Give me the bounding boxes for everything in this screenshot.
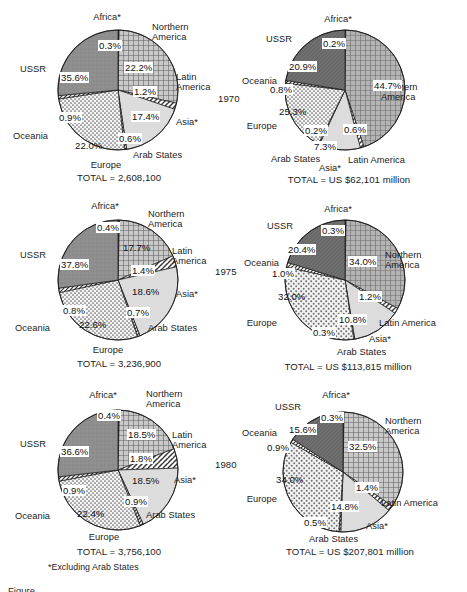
total-label: TOTAL = 2,608,100: [44, 172, 194, 183]
value-africa: 0.3%: [320, 412, 344, 423]
value-ussr: 15.6%: [288, 424, 317, 435]
value-northern-america: 34.0%: [348, 256, 377, 267]
value-latin-america: 1.8%: [129, 453, 153, 464]
value-asia: 14.8%: [330, 501, 359, 512]
label-ussr: USSR: [267, 221, 307, 231]
label-asia: Asia*: [307, 163, 353, 173]
value-oceania: 0.8%: [62, 305, 86, 316]
label-northern-america: Northern America: [152, 22, 214, 43]
label-latin-america: Latin America: [381, 498, 463, 508]
total-label: TOTAL = US $113,815 million: [253, 361, 443, 372]
value-africa: 0.3%: [321, 225, 345, 236]
label-asia: Asia*: [366, 521, 410, 531]
value-arab-states: 0.7%: [126, 307, 150, 318]
value-ussr: 36.6%: [60, 446, 89, 457]
label-arab-states: Arab States: [148, 323, 212, 333]
label-europe: Europe: [78, 160, 134, 170]
chart-money-1975: Africa* Northern America Latin America A…: [233, 192, 467, 384]
value-arab-states: 0.5%: [303, 517, 327, 528]
value-asia: 18.5%: [131, 475, 160, 486]
label-arab-states: Arab States: [133, 150, 195, 160]
value-arab-states: 0.2%: [304, 125, 328, 136]
chart-money-1980: Africa* Northern America Latin America A…: [233, 384, 467, 576]
label-northern-america: Northern America: [385, 416, 447, 437]
value-africa: 0.3%: [98, 40, 122, 51]
value-oceania: 0.8%: [269, 84, 293, 95]
value-northern-america: 32.5%: [348, 441, 377, 452]
value-arab-states: 0.3%: [312, 327, 336, 338]
label-oceania: Oceania: [225, 428, 277, 438]
label-ussr: USSR: [0, 64, 46, 74]
value-northern-america: 22.2%: [124, 62, 153, 73]
value-northern-america: 18.5%: [127, 429, 156, 440]
value-northern-america: 17.7%: [122, 242, 151, 253]
label-europe: Europe: [229, 494, 277, 504]
label-africa: Africa*: [68, 390, 138, 400]
label-northern-america: Northern America: [385, 250, 447, 271]
label-latin-america: Latin America: [348, 155, 428, 165]
value-asia: 18.6%: [131, 286, 160, 297]
value-latin-america: 0.6%: [343, 124, 367, 135]
value-europe: 25.3%: [278, 106, 307, 117]
total-label: TOTAL = US $62,101 million: [259, 174, 439, 185]
value-oceania: 0.9%: [62, 485, 86, 496]
label-europe: Europe: [80, 345, 136, 355]
label-ussr: USSR: [275, 402, 315, 412]
value-europe: 22.0%: [74, 140, 103, 151]
label-asia: Asia*: [176, 289, 216, 299]
value-latin-america: 1.2%: [358, 291, 382, 302]
value-europe: 34.0%: [275, 474, 304, 485]
figure-six-pie-charts: Africa* Northern America Latin America A…: [0, 0, 467, 592]
label-ussr: USSR: [0, 250, 46, 260]
value-latin-america: 1.4%: [131, 265, 155, 276]
value-oceania: 0.9%: [58, 112, 82, 123]
value-asia: 17.4%: [131, 111, 160, 122]
label-latin-america: Latin America: [172, 430, 220, 451]
label-africa: Africa*: [303, 204, 373, 214]
value-arab-states: 0.6%: [118, 133, 142, 144]
label-arab-states: Arab States: [271, 154, 335, 164]
year-label-1970: 1970: [218, 93, 240, 104]
label-asia: Asia*: [369, 334, 413, 344]
value-arab-states: 0.9%: [124, 496, 148, 507]
label-africa: Africa*: [303, 14, 373, 24]
label-europe: Europe: [231, 318, 277, 328]
label-europe: Europe: [233, 121, 277, 131]
label-ussr: USSR: [266, 34, 306, 44]
value-northern-america: 44.7%: [373, 80, 402, 91]
chart-students-1975: Africa* Northern America Latin America A…: [0, 192, 234, 384]
total-label: TOTAL = US $207,801 million: [255, 546, 445, 557]
chart-money-1970: Africa* Northern America Latin America A…: [233, 0, 467, 192]
value-africa: 0.4%: [97, 410, 121, 421]
year-label-1975: 1975: [215, 266, 237, 277]
value-latin-america: 1.4%: [355, 482, 379, 493]
label-oceania: Oceania: [0, 511, 50, 521]
value-europe: 22.6%: [78, 319, 107, 330]
label-africa: Africa*: [72, 12, 142, 22]
label-asia: Asia*: [176, 117, 216, 127]
label-africa: Africa*: [301, 390, 371, 400]
year-label-1980: 1980: [215, 459, 237, 470]
label-latin-america: Latin America: [176, 72, 224, 93]
value-ussr: 20.4%: [287, 244, 316, 255]
value-oceania: 0.9%: [266, 442, 290, 453]
value-latin-america: 1.2%: [133, 86, 157, 97]
value-ussr: 37.8%: [60, 259, 89, 270]
value-asia: 10.8%: [338, 314, 367, 325]
value-africa: 0.2%: [322, 38, 346, 49]
value-ussr: 20.9%: [288, 61, 317, 72]
chart-students-1980: Africa* Northern America Latin America A…: [0, 384, 234, 576]
label-arab-states: Arab States: [146, 510, 210, 520]
label-northern-america: Northern America: [146, 389, 210, 410]
label-latin-america: Latin America: [379, 318, 461, 328]
footnote-excluding-arab-states: *Excluding Arab States: [48, 562, 139, 572]
figure-caption-partial: Figure: [8, 585, 35, 592]
value-oceania: 1.0%: [271, 268, 295, 279]
value-ussr: 35.6%: [60, 72, 89, 83]
total-label: TOTAL = 3,756,100: [44, 546, 194, 557]
label-latin-america: Latin America: [172, 246, 220, 267]
label-arab-states: Arab States: [309, 534, 373, 544]
value-asia: 7.3%: [313, 141, 337, 152]
chart-students-1970: Africa* Northern America Latin America A…: [0, 0, 234, 192]
label-oceania: Oceania: [0, 323, 50, 333]
